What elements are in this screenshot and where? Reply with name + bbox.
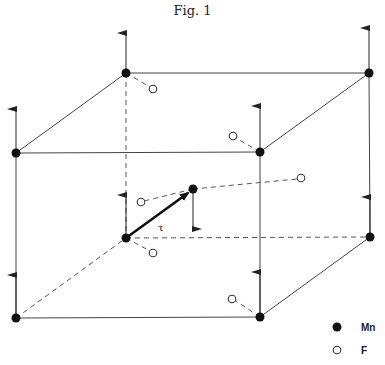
- f-atom: [229, 132, 237, 140]
- f-atom: [149, 249, 157, 257]
- edge-back-bottom-hidden: [126, 237, 370, 238]
- spin-arrows: [16, 28, 370, 318]
- edge-bottom-right-depth: [260, 237, 370, 317]
- legend-f-label: F: [361, 345, 367, 356]
- mn-atom: [256, 148, 265, 157]
- mn-atom: [12, 314, 21, 323]
- legend: Mn F: [333, 322, 376, 356]
- mn-atom: [12, 149, 21, 158]
- edge-top-right-depth: [260, 73, 369, 152]
- edge-bottom-left-depth-hidden: [16, 238, 126, 318]
- tau-vector: [126, 193, 188, 238]
- bond: [193, 179, 297, 189]
- mn-atom: [122, 234, 131, 243]
- tau-label: τ: [158, 222, 164, 233]
- edge-front-top: [16, 152, 260, 153]
- mn-f-bonds: [126, 73, 297, 317]
- f-atoms: [137, 85, 305, 303]
- f-atom: [149, 85, 157, 93]
- mn-atom: [365, 69, 374, 78]
- legend-f-symbol: [333, 346, 341, 354]
- f-atom: [297, 174, 305, 182]
- f-atom: [137, 198, 145, 206]
- edge-front-bottom: [16, 317, 260, 318]
- legend-mn-symbol: [333, 323, 342, 332]
- mn-atom: [366, 233, 375, 242]
- legend-mn-label: Mn: [361, 322, 375, 333]
- edge-top-left-depth: [16, 73, 126, 153]
- mn-atom: [256, 313, 265, 322]
- mn-atom-center: [189, 185, 198, 194]
- unit-cell-diagram: τ Mn F: [0, 0, 385, 365]
- mn-atom: [122, 69, 131, 78]
- f-atom: [228, 295, 236, 303]
